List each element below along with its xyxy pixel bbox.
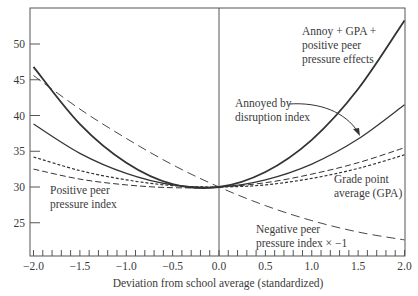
label-negative-peer: Negative peer (256, 223, 320, 236)
label-positive-peer: pressure index (50, 198, 117, 211)
x-tick-label: −2.0 (23, 260, 44, 272)
y-tick-label: 40 (14, 110, 26, 122)
x-axis-label: Deviation from school average (standardi… (113, 277, 324, 290)
y-tick-label: 50 (14, 38, 26, 50)
label-negative-peer: pressure index × −1 (256, 237, 347, 250)
x-tick-label: −0.5 (162, 260, 183, 272)
y-tick-label: 45 (14, 74, 26, 86)
label-gpa: average (GPA) (334, 187, 402, 200)
x-tick-label: 2.0 (397, 260, 412, 272)
x-axis-ticks: −2.0−1.5−1.0−0.50.00.51.01.52.0 (23, 250, 412, 272)
label-annoy-gpa: positive peer (302, 39, 361, 52)
label-annoyed: disruption index (235, 111, 310, 124)
label-annoy-gpa: Annoy + GPA + (302, 25, 376, 38)
x-tick-label: −1.0 (116, 260, 137, 272)
x-tick-label: 1.5 (351, 260, 366, 272)
x-tick-label: 0.0 (212, 260, 227, 272)
arrowhead-icon (353, 128, 360, 136)
x-tick-label: −1.5 (69, 260, 90, 272)
y-tick-label: 25 (14, 217, 26, 229)
y-tick-label: 35 (14, 145, 26, 157)
line-chart: 504540353025 −2.0−1.5−1.0−0.50.00.51.01.… (0, 0, 418, 296)
label-positive-peer: Positive peer (50, 184, 110, 197)
label-annoyed: Annoyed by (235, 97, 292, 110)
x-tick-label: 1.0 (305, 260, 320, 272)
y-axis-ticks: 504540353025 (14, 38, 41, 229)
x-tick-label: 0.5 (258, 260, 273, 272)
label-annoy-gpa: pressure effects (302, 53, 374, 66)
y-tick-label: 30 (14, 181, 26, 193)
label-gpa: Grade point (334, 173, 389, 186)
